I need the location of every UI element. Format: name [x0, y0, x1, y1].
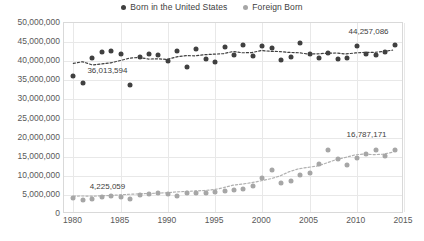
data-point [118, 51, 123, 56]
data-point [250, 184, 255, 189]
data-point [364, 152, 369, 157]
data-point [165, 191, 170, 196]
data-point [80, 197, 85, 202]
legend-marker-icon [121, 5, 126, 10]
data-points [64, 23, 402, 212]
data-point [354, 44, 359, 49]
data-point [383, 153, 388, 158]
gridline-vertical [357, 23, 358, 212]
data-point [90, 197, 95, 202]
data-point [128, 197, 133, 202]
legend-marker-icon [243, 5, 248, 10]
x-axis: 19801985199019952000200520102015 [63, 215, 403, 231]
gridline-horizontal [64, 176, 402, 177]
data-point [383, 49, 388, 54]
data-point [241, 186, 246, 191]
data-point [345, 55, 350, 60]
trendline [73, 50, 392, 65]
data-point [373, 148, 378, 153]
data-point [392, 42, 397, 47]
trendline [73, 152, 392, 196]
data-point [137, 55, 142, 60]
y-axis-tick-label: 45,000,000 [2, 36, 60, 46]
x-axis-tick-label: 2000 [252, 215, 271, 225]
data-point [279, 57, 284, 62]
y-axis-tick-label: 5,000,000 [2, 189, 60, 199]
data-point [71, 195, 76, 200]
data-point [298, 40, 303, 45]
y-axis: 05,000,00010,000,00015,000,00020,000,000… [0, 22, 60, 213]
legend-item-born-in-the-united-states[interactable]: Born in the United States [121, 2, 227, 12]
data-point [335, 56, 340, 61]
gridline-horizontal [64, 195, 402, 196]
data-point [194, 190, 199, 195]
data-point [269, 168, 274, 173]
data-point [90, 55, 95, 60]
data-point [147, 51, 152, 56]
data-point [109, 48, 114, 53]
y-axis-tick-label: 40,000,000 [2, 55, 60, 65]
data-point [307, 51, 312, 56]
y-axis-tick-label: 50,000,000 [2, 17, 60, 27]
chart-legend: Born in the United States Foreign Born [0, 2, 424, 12]
gridline-horizontal [64, 61, 402, 62]
gridline-vertical [121, 23, 122, 212]
data-point [213, 189, 218, 194]
data-point [213, 59, 218, 64]
data-point [71, 74, 76, 79]
data-point [137, 193, 142, 198]
data-point [373, 53, 378, 58]
data-labels: 36,013,59444,257,0864,225,05916,787,171 [64, 23, 402, 212]
data-point [279, 180, 284, 185]
data-point [194, 46, 199, 51]
data-point [184, 191, 189, 196]
data-point [317, 55, 322, 60]
legend-label: Born in the United States [130, 2, 227, 12]
data-point [99, 195, 104, 200]
data-point [317, 161, 322, 166]
data-point [288, 55, 293, 60]
data-point [222, 189, 227, 194]
data-point [260, 44, 265, 49]
gridline-horizontal [64, 99, 402, 100]
data-point [156, 191, 161, 196]
data-point [203, 190, 208, 195]
data-point [222, 44, 227, 49]
us-first-label: 36,013,594 [87, 66, 127, 75]
x-axis-tick-label: 2010 [346, 215, 365, 225]
gridline-horizontal [64, 119, 402, 120]
data-point [128, 82, 133, 87]
data-point [99, 49, 104, 54]
gridline-vertical [215, 23, 216, 212]
data-point [156, 53, 161, 58]
gridline-horizontal [64, 138, 402, 139]
y-axis-tick-label: 10,000,000 [2, 170, 60, 180]
data-point [392, 147, 397, 152]
data-point [335, 157, 340, 162]
data-point [241, 43, 246, 48]
x-axis-tick-label: 1995 [205, 215, 224, 225]
legend-label: Foreign Born [252, 2, 302, 12]
trendlines [64, 23, 402, 212]
data-point [80, 80, 85, 85]
data-point [307, 170, 312, 175]
x-axis-tick-label: 2015 [394, 215, 413, 225]
fb-first-label: 4,225,059 [90, 181, 126, 190]
data-point [175, 49, 180, 54]
fb-last-label: 16,787,171 [347, 129, 387, 138]
data-point [250, 54, 255, 59]
legend-item-foreign-born[interactable]: Foreign Born [243, 2, 302, 12]
us-last-label: 44,257,086 [349, 26, 389, 35]
data-point [147, 191, 152, 196]
gridline-vertical [310, 23, 311, 212]
data-point [298, 172, 303, 177]
y-axis-tick-label: 30,000,000 [2, 93, 60, 103]
gridline-vertical [73, 23, 74, 212]
data-point [184, 64, 189, 69]
gridline-horizontal [64, 80, 402, 81]
y-axis-tick-label: 25,000,000 [2, 113, 60, 123]
data-point [260, 176, 265, 181]
y-axis-tick-label: 15,000,000 [2, 151, 60, 161]
data-point [288, 179, 293, 184]
data-point [165, 58, 170, 63]
